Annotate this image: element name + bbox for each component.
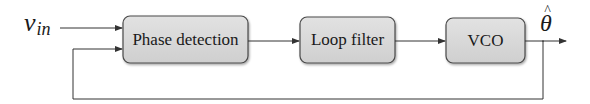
input-symbol: vin (24, 8, 51, 39)
output-symbol: θ ^ (540, 3, 552, 36)
vco-label: VCO (468, 31, 504, 50)
loop-filter-label: Loop filter (311, 30, 385, 49)
input-symbol-main: v (24, 8, 36, 37)
branch-point (542, 40, 544, 42)
pll-block-diagram: vin Phase detection Loop filter VCO θ ^ (0, 0, 590, 104)
phase-detection-block: Phase detection (123, 16, 248, 63)
loop-filter-block: Loop filter (300, 17, 395, 63)
phase-detection-label: Phase detection (132, 30, 239, 49)
input-symbol-subscript: in (37, 19, 51, 39)
vco-block: VCO (446, 18, 525, 63)
feedback-input-arrow (73, 49, 122, 99)
